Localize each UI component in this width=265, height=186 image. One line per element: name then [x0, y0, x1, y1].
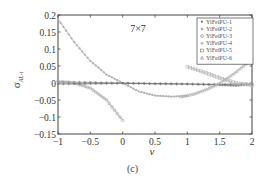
legend: YiFeiPU-1YiFeiPU-2YiFeiPU-3YiFeiPU-4YiFe… [197, 18, 253, 64]
svg-text:σAL-i: σAL-i [10, 71, 24, 88]
x-tick-label: 2 [250, 137, 255, 147]
x-tick-label: 1 [185, 137, 190, 147]
y-tick-label: 0.15 [39, 28, 56, 38]
legend-item: YiFeiPU-1 [201, 19, 232, 25]
legend-label: YiFeiPU-4 [206, 40, 232, 46]
legend-label: YiFeiPU-3 [206, 33, 232, 39]
legend-label: YiFeiPU-1 [206, 19, 232, 25]
legend-label: YiFeiPU-5 [206, 47, 232, 53]
y-tick-label: 0.05 [39, 62, 56, 72]
legend-label: YiFeiPU-6 [206, 55, 232, 61]
figure-caption: (c) [0, 163, 265, 174]
legend-item: YiFeiPU-2 [201, 26, 232, 32]
y-tick-label: 0.1 [44, 45, 56, 55]
x-axis-label: ν [150, 145, 155, 157]
y-axis-label: σAL-i [10, 71, 24, 88]
y-tick-label: −0.1 [39, 113, 56, 123]
legend-label: YiFeiPU-2 [206, 26, 232, 32]
legend-item: YiFeiPU-5 [201, 47, 232, 53]
legend-item: YiFeiPU-6 [201, 55, 232, 61]
y-tick-label: 0 [51, 79, 56, 89]
chart: −1−0.500.511.520.20.150.10.050−0.05−0.1−… [0, 0, 265, 186]
y-tick-label: 0.2 [44, 11, 56, 21]
x-tick-label: 0 [120, 137, 125, 147]
legend-item: YiFeiPU-4 [201, 40, 232, 46]
x-tick-label: −0.5 [82, 137, 99, 147]
x-tick-label: 1.5 [214, 137, 226, 147]
series-yifeipu-3 [57, 80, 124, 122]
y-tick-label: −0.05 [34, 96, 56, 106]
series-yifeipu-1 [57, 18, 189, 98]
legend-item: YiFeiPU-3 [201, 33, 232, 39]
grid-size-annotation: 7×7 [130, 23, 146, 34]
y-axis-label-subscript: AL-i [18, 71, 24, 83]
y-tick-label: −0.15 [34, 130, 56, 140]
